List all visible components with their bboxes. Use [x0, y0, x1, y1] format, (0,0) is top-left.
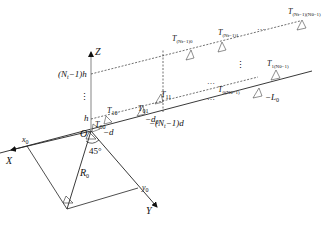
ellipsis-row1: … [207, 77, 215, 86]
ground-array-line [0, 71, 312, 153]
x0-to-target [27, 146, 67, 209]
element-T0-Ntheta-1: T0(Nθ−1) [218, 85, 262, 98]
h-label: h [84, 113, 89, 123]
range-line [67, 131, 91, 209]
z-axis-label: Z [95, 46, 101, 57]
x-axis-label: X [5, 155, 13, 166]
element-TNt-1-0: T(Nt−1)0 [172, 34, 194, 60]
angle-label: 45° [89, 146, 102, 156]
svg-text:T(Nt−1)0: T(Nt−1)0 [172, 34, 193, 44]
tick-minus-nt-1-d: −(Nt−1)d [149, 118, 184, 129]
range-label: R0 [79, 167, 89, 179]
svg-text:T(Nt−1)1: T(Nt−1)1 [218, 28, 239, 38]
svg-text:T(Nt−1)(Nθ−1): T(Nt−1)(Nθ−1) [288, 7, 321, 17]
y-axis-label: Y [146, 205, 153, 216]
svg-text:T1(Nθ−1): T1(Nθ−1) [267, 59, 289, 69]
svg-text:T11: T11 [161, 90, 171, 100]
nt-minus-1-h-label: (Nt−1)h [58, 69, 87, 80]
element-T1-Ntheta-1: T1(Nθ−1) [267, 59, 289, 80]
target-to-y0 [67, 188, 138, 209]
svg-text:T0(Nθ−1): T0(Nθ−1) [218, 85, 240, 95]
tick-minus-d: −d [103, 127, 114, 137]
array-geometry-diagram: Z X Y O 45° R0 x0 y0 h (Nt−1)h ⋮ T00 T10… [0, 0, 327, 225]
tick-minus-L0: −L0 [265, 92, 279, 103]
z-vertical-ellipsis: ⋮ [80, 92, 89, 102]
vertical-ellipsis-mid: ⋮ [236, 60, 245, 70]
target-radar-icon [63, 196, 73, 203]
ellipsis-row0: … [207, 93, 215, 102]
origin-label: O [80, 128, 87, 139]
ellipsis-top: … [257, 23, 265, 32]
svg-text:T01: T01 [138, 104, 148, 114]
y-axis [91, 131, 157, 207]
svg-text:T10: T10 [107, 106, 117, 116]
x0-label: x0 [21, 135, 29, 145]
element-TNt-1-Ntheta-1: T(Nt−1)(Nθ−1) [288, 7, 321, 30]
y0-label: y0 [141, 183, 149, 193]
element-T11: T11 [155, 90, 171, 104]
element-TNt-1-1: T(Nt−1)1 [218, 28, 239, 52]
